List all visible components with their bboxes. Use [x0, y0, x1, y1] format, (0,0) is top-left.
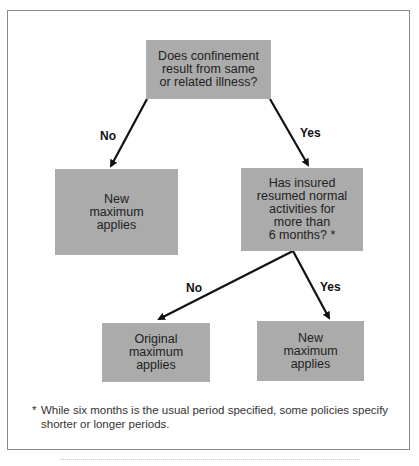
- edge-label-q1-no: No: [100, 129, 116, 143]
- footnote-text: While six months is the usual period spe…: [41, 403, 392, 431]
- edge-label-q2-no: No: [186, 281, 202, 295]
- question-box-confinement: Does confinement result from same or rel…: [146, 40, 271, 99]
- edge-label-q2-yes: Yes: [320, 280, 341, 294]
- page-bleed-through: [60, 459, 360, 463]
- footnote: * While six months is the usual period s…: [32, 403, 392, 431]
- result-box-new-maximum-left: New maximum applies: [55, 169, 178, 255]
- footnote-marker: *: [32, 403, 41, 431]
- edge-label-q1-yes: Yes: [300, 126, 321, 140]
- result-box-original-maximum: Original maximum applies: [102, 323, 210, 382]
- result-box-new-maximum-right: New maximum applies: [257, 321, 364, 381]
- question-box-resumed-activities: Has insured resumed normal activities fo…: [241, 168, 363, 251]
